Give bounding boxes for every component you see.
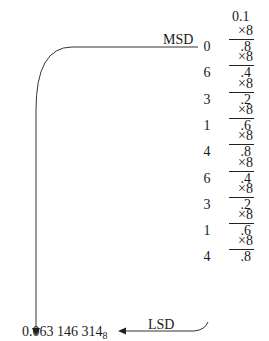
msd-label: MSD [163, 33, 193, 47]
start-value: 0.1 [232, 10, 250, 24]
octal-digit: 3 [202, 198, 212, 212]
final-result-base: 8 [103, 330, 108, 341]
final-result: 0.063 146 3148 [22, 325, 108, 341]
octal-digit: 0 [202, 40, 212, 54]
multiply-by-8: ×8 [229, 129, 253, 143]
multiply-by-8: ×8 [229, 208, 253, 222]
multiply-by-8: ×8 [229, 50, 253, 64]
octal-digit: 6 [202, 172, 212, 186]
step-result: .8 [229, 250, 251, 264]
multiply-by-8: ×8 [229, 182, 253, 196]
octal-digit: 3 [202, 93, 212, 107]
multiply-by-8: ×8 [229, 77, 253, 91]
final-result-value: 0.063 146 314 [22, 324, 103, 339]
multiply-by-8: ×8 [229, 24, 253, 38]
octal-digit: 6 [202, 66, 212, 80]
lsd-label: LSD [148, 318, 174, 332]
multiply-by-8: ×8 [229, 156, 253, 170]
multiply-by-8: ×8 [229, 234, 253, 248]
octal-digit: 1 [202, 224, 212, 238]
multiply-by-8: ×8 [229, 103, 253, 117]
octal-digit: 1 [202, 119, 212, 133]
octal-digit: 4 [202, 250, 212, 264]
octal-digit: 4 [202, 145, 212, 159]
